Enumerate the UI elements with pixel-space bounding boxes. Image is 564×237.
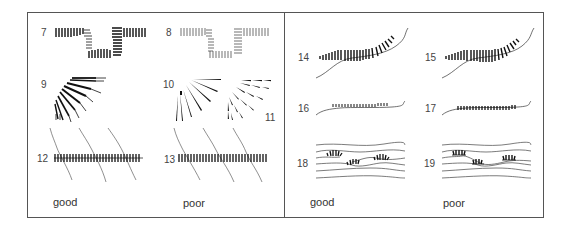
- example-15-drawing: [442, 28, 534, 78]
- example-14-drawing: [316, 28, 408, 78]
- example-9-drawing: [55, 78, 106, 122]
- example-8-drawing: [181, 28, 268, 58]
- example-16-drawing: [316, 101, 405, 115]
- example-17-drawing: [442, 101, 531, 115]
- hachure-drawings: [0, 0, 564, 237]
- example-19-drawing: [442, 142, 531, 178]
- example-12-drawing: [50, 128, 143, 182]
- example-11-drawing: [228, 80, 271, 120]
- example-13-drawing: [174, 128, 266, 182]
- example-18-drawing: [316, 142, 405, 178]
- example-10-drawing: [176, 79, 221, 121]
- example-7-drawing: [56, 28, 145, 58]
